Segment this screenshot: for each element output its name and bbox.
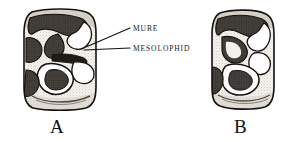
annotation-label-mure: MURE xyxy=(133,25,158,33)
tooth-anatomy-figure: MURE MESOLOPHID A B xyxy=(0,0,304,142)
figure-letter-b: B xyxy=(234,117,247,136)
annotation-label-mesolophid: MESOLOPHID xyxy=(133,45,190,53)
tooth-crown-b xyxy=(210,9,276,111)
molar-occlusal-view-a xyxy=(22,8,98,112)
molar-occlusal-view-b xyxy=(210,9,276,111)
figure-letter-a: A xyxy=(50,117,64,136)
tooth-crown-a xyxy=(22,8,98,112)
